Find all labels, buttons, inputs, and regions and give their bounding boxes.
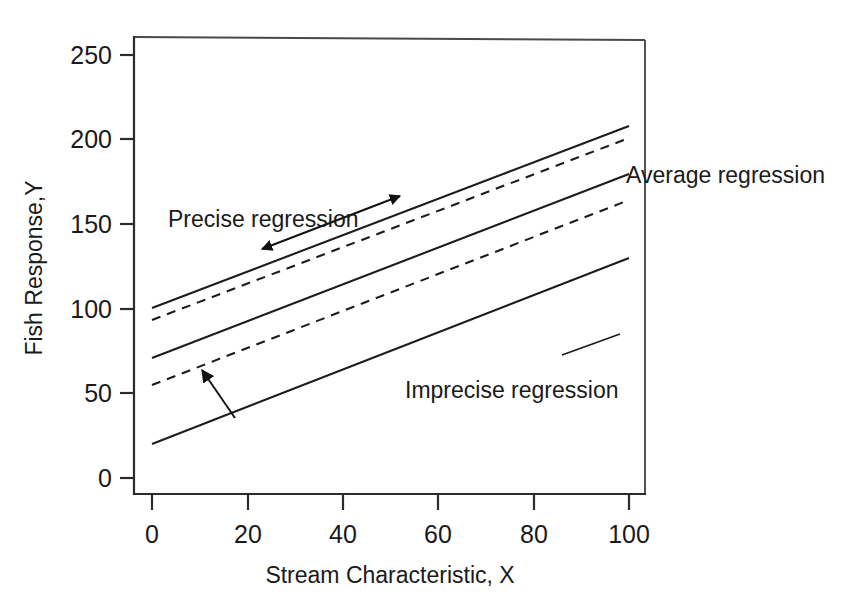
average-regression-label: Average regression <box>626 162 825 188</box>
y-axis-title: Fish Response,Y <box>21 180 47 355</box>
x-tick-label-20: 20 <box>234 520 262 548</box>
y-tick-label-150: 150 <box>70 210 112 238</box>
x-tick-label-100: 100 <box>608 520 650 548</box>
y-tick-label-0: 0 <box>98 464 112 492</box>
x-tick-labels: 0 20 40 60 80 100 <box>145 520 650 548</box>
x-tick-label-80: 80 <box>520 520 548 548</box>
regression-chart: 250 200 150 100 50 0 0 20 40 60 80 100 S… <box>0 0 851 605</box>
x-axis-title: Stream Characteristic, X <box>265 562 514 588</box>
imprecise-regression-label: Imprecise regression <box>405 377 618 403</box>
line-imprecise-lower-solid <box>152 258 629 444</box>
frame-top-border <box>134 37 645 40</box>
x-tick-label-0: 0 <box>145 520 159 548</box>
y-tick-label-200: 200 <box>70 125 112 153</box>
imprecise-single-arrow <box>202 370 235 418</box>
line-average-regression <box>152 174 629 358</box>
y-tick-labels: 250 200 150 100 50 0 <box>70 41 112 492</box>
x-tick-label-40: 40 <box>329 520 357 548</box>
precise-regression-label: Precise regression <box>168 206 358 232</box>
y-tick-label-100: 100 <box>70 295 112 323</box>
chart-figure: 250 200 150 100 50 0 0 20 40 60 80 100 S… <box>0 0 851 605</box>
y-tick-label-50: 50 <box>84 379 112 407</box>
y-axis <box>120 37 134 494</box>
x-tick-label-60: 60 <box>424 520 452 548</box>
x-axis <box>134 494 645 510</box>
y-tick-label-250: 250 <box>70 41 112 69</box>
average-regression-leader <box>562 334 620 355</box>
